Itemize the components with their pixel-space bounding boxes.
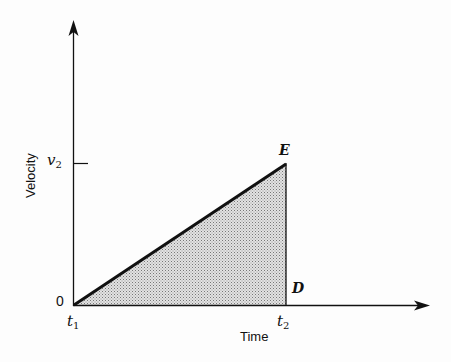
velocity-time-diagram: Velocity Time 0 v2 t1 t2 E D <box>0 0 451 362</box>
v2-label: v2 <box>47 153 62 170</box>
t1-sub: 1 <box>73 320 79 331</box>
v2-sub: 2 <box>55 159 61 170</box>
point-e-label: E <box>279 143 290 157</box>
point-d-label: D <box>292 281 304 295</box>
y-axis-label: Velocity <box>24 153 37 198</box>
t1-label: t1 <box>67 314 79 331</box>
t2-sub: 2 <box>283 320 289 331</box>
origin-label: 0 <box>56 294 64 308</box>
diagram-graphics <box>0 0 451 362</box>
x-axis-label: Time <box>240 330 268 343</box>
t2-label: t2 <box>277 314 289 331</box>
